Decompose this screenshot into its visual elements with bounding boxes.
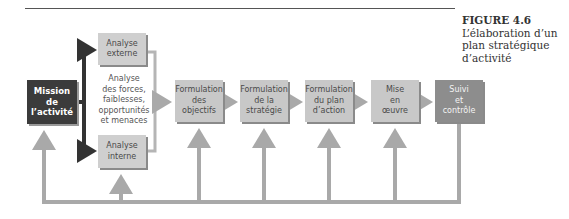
step-control-box: Suivi et contrôle: [435, 80, 483, 122]
step-objectives-label: Formulation des objectifs: [175, 85, 223, 117]
external-analysis-label: Analyse externe: [106, 39, 138, 60]
step-implementation-box: Mise en œuvre: [371, 80, 419, 122]
step-implementation-label: Mise en œuvre: [382, 85, 408, 117]
external-analysis-box: Analyse externe: [98, 33, 146, 65]
step-strategy-box: Formulation de la stratégie: [240, 80, 288, 122]
step-action-plan-box: Formulation du plan d’action: [305, 80, 353, 122]
mission-label: Mission de l’activité: [31, 86, 73, 118]
step-action-plan-label: Formulation du plan d’action: [305, 85, 353, 117]
internal-analysis-label: Analyse interne: [106, 141, 138, 162]
step-objectives-box: Formulation des objectifs: [175, 80, 223, 122]
internal-analysis-box: Analyse interne: [98, 135, 146, 168]
step-strategy-label: Formulation de la stratégie: [240, 85, 288, 117]
mission-box: Mission de l’activité: [27, 80, 77, 124]
swot-analysis-text: Analyse des forces, faiblesses, opportun…: [96, 74, 152, 127]
step-control-label: Suivi et contrôle: [443, 85, 476, 117]
